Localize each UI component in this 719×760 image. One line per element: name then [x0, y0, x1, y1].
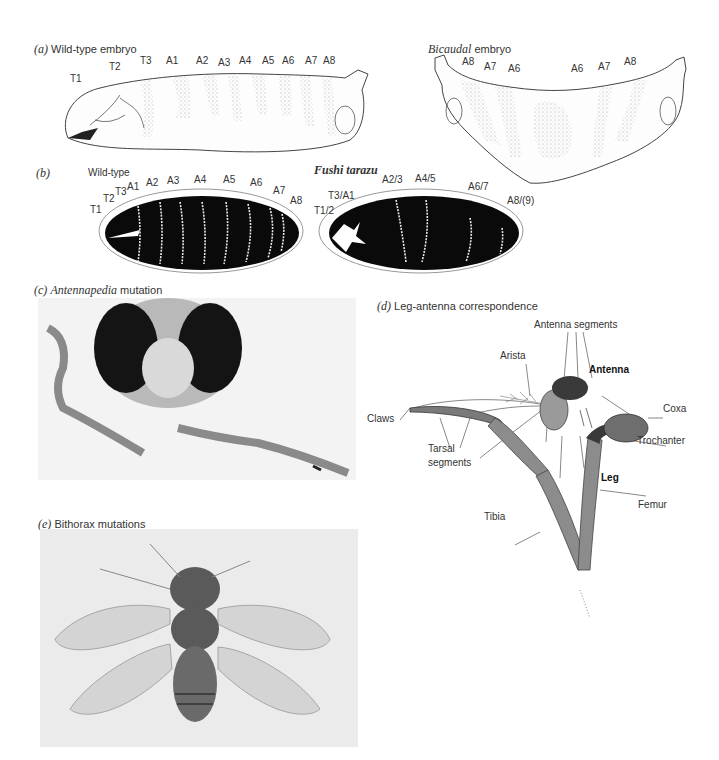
bithorax-fly-photo: [40, 529, 358, 747]
panel-b-wildtype-title: Wild-type: [88, 168, 130, 178]
label-antenna: Antenna: [589, 365, 629, 375]
fly-second-thorax: [171, 607, 219, 651]
antenna-basal-segments: [552, 376, 588, 400]
wildtype-ftz-stained-embryo: [98, 188, 304, 274]
wildtype-segment-label: A1: [166, 56, 178, 66]
ftz-wt-segment-label: A5: [223, 175, 235, 185]
label-antenna-segments: Antenna segments: [534, 320, 617, 330]
bicaudal-title-rest: embryo: [474, 43, 511, 55]
wildtype-segment-label: T3: [140, 56, 152, 66]
wildtype-segment-label: T1: [70, 74, 82, 84]
wildtype-segment-label: A7: [305, 56, 317, 66]
bicaudal-segment-label: A8: [462, 57, 474, 67]
antennapedia-head-photo: [38, 298, 356, 480]
panel-b-letter: (b): [36, 166, 50, 181]
fly-abdomen: [173, 646, 217, 722]
bicaudal-segment-label: A8: [624, 57, 636, 67]
femur-shape: [578, 438, 602, 570]
panel-a-caption: (a) Wild-type embryo: [34, 42, 137, 57]
ftz-wt-segment-label: T1: [90, 205, 102, 215]
wildtype-segment-label: A3: [218, 58, 230, 68]
panel-c-title-rest: mutation: [120, 284, 162, 296]
ftz-wt-segment-label: A3: [167, 176, 179, 186]
panel-c-caption: (c) Antennapedia mutation: [34, 283, 162, 298]
ftz-mut-segment-label: A4/5: [415, 174, 436, 184]
ftz-wt-segment-label: A7: [273, 186, 285, 196]
label-femur: Femur: [638, 500, 667, 510]
bicaudal-segment-label: A7: [484, 62, 496, 72]
label-tibia: Tibia: [484, 512, 505, 522]
ftz-wt-segment-label: A1: [127, 182, 139, 192]
ftz-wt-segment-label: A8: [290, 196, 302, 206]
ftz-wt-segment-label: A2: [146, 178, 158, 188]
ftz-mut-segment-label: T3/A1: [328, 191, 355, 201]
label-claws: Claws: [367, 414, 394, 424]
panel-c-title-italic: Antennapedia: [50, 283, 117, 297]
label-leg: Leg: [601, 473, 619, 483]
ftz-wt-segment-label: T3: [115, 187, 127, 197]
panel-c-letter: (c): [34, 283, 47, 297]
ftz-wt-segment-label: A4: [194, 175, 206, 185]
ftz-mut-segment-label: A2/3: [382, 175, 403, 185]
ftz-mut-segment-label: T1/2: [314, 206, 334, 216]
label-tarsal-line1: Tarsal: [428, 444, 455, 454]
panel-b-ftz-title: Fushi tarazu: [314, 164, 378, 176]
panel-a-letter: (a): [34, 42, 48, 56]
bicaudal-segment-label: A6: [571, 64, 583, 74]
ftz-mut-segment-label: A6/7: [468, 182, 489, 192]
bicaudal-embryo-drawing: [430, 55, 700, 195]
wildtype-segment-label: A2: [196, 56, 208, 66]
ftz-mut-segment-label: A8/(9): [507, 196, 534, 206]
wildtype-embryo-drawing: [60, 60, 370, 150]
label-trochanter: Trochanter: [637, 436, 685, 446]
panel-a-wildtype-title: Wild-type embryo: [51, 43, 137, 55]
bicaudal-segment-label: A6: [508, 64, 520, 74]
wildtype-segment-label: A6: [282, 56, 294, 66]
ftz-wt-segment-label: T2: [103, 194, 115, 204]
wildtype-segment-label: A4: [239, 56, 251, 66]
label-arista: Arista: [500, 351, 526, 361]
label-coxa: Coxa: [663, 404, 686, 414]
ftz-wt-segment-label: A6: [250, 178, 262, 188]
wildtype-segment-label: A5: [262, 56, 274, 66]
wildtype-segment-label: T2: [109, 62, 121, 72]
label-tarsal-line2: segments: [428, 458, 471, 468]
bicaudal-segment-label: A7: [598, 62, 610, 72]
bicaudal-title-italic: Bicaudal: [428, 42, 471, 56]
wildtype-segment-label: A8: [323, 56, 335, 66]
